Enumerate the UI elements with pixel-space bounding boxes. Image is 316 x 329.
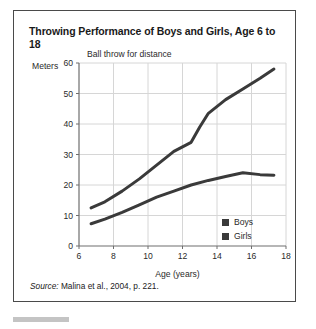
x-axis-tick-label: 8 xyxy=(104,251,124,261)
y-axis-tick-label: 40 xyxy=(51,119,73,129)
x-axis-title: Age (years) xyxy=(14,269,295,279)
source-citation: Malina et al., 2004, p. 221. xyxy=(59,281,159,291)
chart-card: Throwing Performance of Boys and Girls, … xyxy=(13,10,296,302)
x-axis-tick-label: 14 xyxy=(207,251,227,261)
source-label: Source: xyxy=(30,281,59,291)
y-axis-tick-label: 50 xyxy=(51,89,73,99)
legend-item-girls[interactable]: Girls xyxy=(222,231,252,241)
y-axis-tick-label: 30 xyxy=(51,150,73,160)
plot-area: 0102030405060681012141618BoysGirls xyxy=(14,11,297,303)
x-axis-tick-label: 18 xyxy=(276,251,296,261)
bottom-stub-bar xyxy=(13,317,69,322)
y-axis-tick-label: 60 xyxy=(51,58,73,68)
y-axis-tick-label: 0 xyxy=(51,241,73,251)
x-axis-tick-label: 12 xyxy=(173,251,193,261)
x-axis-tick-label: 10 xyxy=(138,251,158,261)
source-note: Source: Malina et al., 2004, p. 221. xyxy=(30,281,159,291)
x-axis-tick-label: 16 xyxy=(242,251,262,261)
x-axis-title-label: Age (years) xyxy=(109,269,199,279)
legend-swatch-icon xyxy=(222,219,229,226)
legend-label: Girls xyxy=(234,231,252,241)
legend-item-boys[interactable]: Boys xyxy=(222,217,253,227)
y-axis-tick-label: 10 xyxy=(51,211,73,221)
x-axis-tick-label: 6 xyxy=(69,251,89,261)
y-axis-tick-label: 20 xyxy=(51,180,73,190)
legend-label: Boys xyxy=(234,217,253,227)
legend-swatch-icon xyxy=(222,233,229,240)
